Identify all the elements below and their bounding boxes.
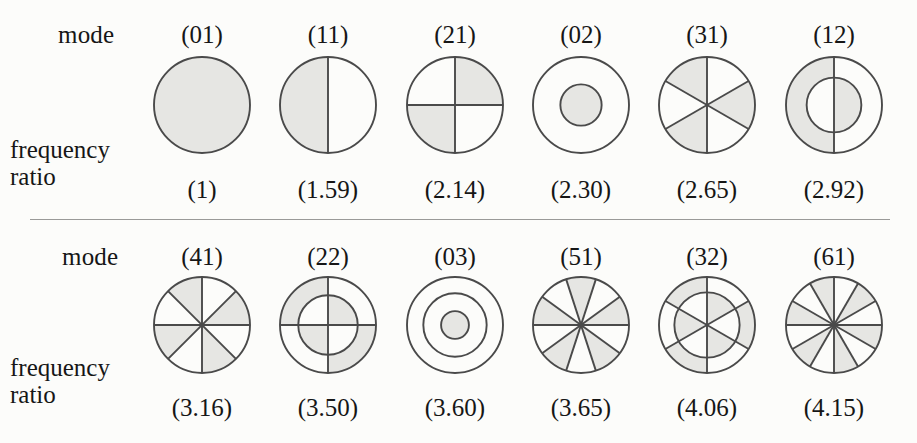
mode-cell-02: (02) (2.30) bbox=[518, 0, 644, 216]
mode-cell-51: (51) (3.65) bbox=[518, 222, 644, 438]
mode-label: (22) bbox=[265, 244, 391, 269]
mode-cell-12: (12) (2.92) bbox=[771, 0, 897, 216]
mode-disc-41 bbox=[152, 275, 252, 375]
mode-cell-61: (61) (4.15) bbox=[771, 222, 897, 438]
mode-row-bottom: mode frequency ratio (41) (3.16) (22) (3… bbox=[0, 222, 917, 438]
mode-label: (31) bbox=[644, 22, 770, 47]
row-label-mode-bottom: mode bbox=[62, 244, 118, 269]
mode-disc-22 bbox=[278, 275, 378, 375]
row-label-frequency-top: frequency bbox=[10, 136, 110, 163]
mode-shape-svg bbox=[531, 55, 631, 155]
mode-label: (61) bbox=[771, 244, 897, 269]
mode-disc-31 bbox=[657, 55, 757, 155]
mode-disc-12 bbox=[784, 55, 884, 155]
frequency-ratio-label: (3.60) bbox=[392, 395, 518, 420]
mode-label: (21) bbox=[392, 22, 518, 47]
membrane-mode-figure: mode frequency ratio (01) (1) (11) (1.59… bbox=[0, 0, 917, 443]
row-label-frequency-ratio-top: frequency ratio bbox=[10, 136, 110, 190]
mode-shape-svg bbox=[152, 275, 252, 375]
mode-cell-32: (32) (4.06) bbox=[644, 222, 770, 438]
frequency-ratio-label: (4.15) bbox=[771, 395, 897, 420]
mode-disc-21 bbox=[405, 55, 505, 155]
frequency-ratio-label: (1.59) bbox=[265, 177, 391, 202]
mode-cell-01: (01) (1) bbox=[139, 0, 265, 216]
mode-shape-svg bbox=[405, 55, 505, 155]
mode-disc-03 bbox=[405, 275, 505, 375]
mode-disc-01 bbox=[152, 55, 252, 155]
mode-disc-11 bbox=[278, 55, 378, 155]
mode-label: (01) bbox=[139, 22, 265, 47]
mode-shape-svg bbox=[278, 275, 378, 375]
mode-cell-41: (41) (3.16) bbox=[139, 222, 265, 438]
mode-shape-svg bbox=[657, 275, 757, 375]
mode-row-top: mode frequency ratio (01) (1) (11) (1.59… bbox=[0, 0, 917, 216]
mode-cell-03: (03) (3.60) bbox=[392, 222, 518, 438]
row-label-ratio-top: ratio bbox=[10, 163, 110, 190]
mode-shape-svg bbox=[152, 55, 252, 155]
mode-label: (03) bbox=[392, 244, 518, 269]
row-label-frequency-ratio-bottom: frequency ratio bbox=[10, 354, 110, 408]
mode-label: (41) bbox=[139, 244, 265, 269]
mode-disc-51 bbox=[531, 275, 631, 375]
mode-shape-svg bbox=[784, 55, 884, 155]
mode-label: (02) bbox=[518, 22, 644, 47]
mode-cell-11: (11) (1.59) bbox=[265, 0, 391, 216]
mode-shape-svg bbox=[784, 275, 884, 375]
mode-shape-svg bbox=[531, 275, 631, 375]
frequency-ratio-label: (3.50) bbox=[265, 395, 391, 420]
frequency-ratio-label: (2.65) bbox=[644, 177, 770, 202]
frequency-ratio-label: (3.16) bbox=[139, 395, 265, 420]
mode-disc-02 bbox=[531, 55, 631, 155]
mode-shape-svg bbox=[405, 275, 505, 375]
mode-shape-svg bbox=[278, 55, 378, 155]
mode-label: (11) bbox=[265, 22, 391, 47]
row-label-mode-top: mode bbox=[58, 22, 114, 47]
frequency-ratio-label: (2.30) bbox=[518, 177, 644, 202]
frequency-ratio-label: (2.92) bbox=[771, 177, 897, 202]
mode-label: (51) bbox=[518, 244, 644, 269]
frequency-ratio-label: (4.06) bbox=[644, 395, 770, 420]
row-divider bbox=[30, 219, 890, 220]
mode-cell-21: (21) (2.14) bbox=[392, 0, 518, 216]
frequency-ratio-label: (1) bbox=[139, 177, 265, 202]
mode-shape-svg bbox=[657, 55, 757, 155]
mode-label: (12) bbox=[771, 22, 897, 47]
mode-cell-22: (22) (3.50) bbox=[265, 222, 391, 438]
mode-label: (32) bbox=[644, 244, 770, 269]
mode-disc-61 bbox=[784, 275, 884, 375]
row-label-frequency-bottom: frequency bbox=[10, 354, 110, 381]
mode-disc-32 bbox=[657, 275, 757, 375]
frequency-ratio-label: (2.14) bbox=[392, 177, 518, 202]
mode-cell-31: (31) (2.65) bbox=[644, 0, 770, 216]
row-label-ratio-bottom: ratio bbox=[10, 381, 110, 408]
frequency-ratio-label: (3.65) bbox=[518, 395, 644, 420]
